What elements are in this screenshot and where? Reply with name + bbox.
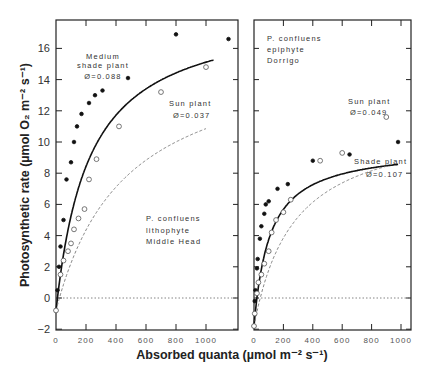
- shade-data-point: [69, 160, 73, 164]
- shade-data-point: [267, 199, 271, 203]
- sun-data-point: [259, 272, 264, 277]
- right-sun-phi: Ø=0.049: [350, 108, 387, 117]
- photosynthesis-light-response-figure: 02004006008001000−20246810121416 Medium …: [0, 0, 428, 377]
- sun-data-point: [82, 207, 87, 212]
- sun-data-point: [288, 197, 293, 202]
- y-tick-label: 4: [44, 230, 50, 242]
- y-tick-label: 8: [44, 167, 50, 179]
- left-shade-label-1: Medium: [86, 52, 120, 61]
- sun-data-point: [269, 230, 274, 235]
- sun-data-point: [281, 210, 286, 215]
- sun-data-point: [72, 227, 77, 232]
- x-tick-label: 400: [108, 336, 124, 345]
- y-tick-label: 6: [44, 198, 50, 210]
- left-plot-data: [54, 33, 231, 313]
- shade-data-point: [396, 140, 400, 144]
- shade-data-point: [80, 112, 84, 116]
- y-tick-label: 2: [44, 261, 50, 273]
- shade-data-point: [75, 125, 79, 129]
- sun-data-point: [87, 177, 92, 182]
- left-site-label-2: lithophyte: [146, 226, 190, 235]
- x-tick-label: 800: [363, 336, 379, 345]
- shade-data-point: [255, 267, 259, 271]
- right-axis-ticks: 02004006008001000: [251, 20, 412, 345]
- sun-data-point: [262, 261, 267, 266]
- y-tick-label: 0: [44, 292, 50, 304]
- shade-data-point: [276, 187, 280, 191]
- sun-data-point: [54, 308, 59, 313]
- shade-data-point: [57, 265, 61, 269]
- x-tick-label: 1000: [390, 336, 412, 345]
- left-sun-label: Sun plant: [169, 99, 212, 108]
- shade-data-point: [260, 224, 264, 228]
- right-site-label-1: P. confluens: [267, 34, 322, 43]
- shade-data-point: [87, 101, 91, 105]
- left-panel: 02004006008001000−20246810121416 Medium …: [37, 20, 238, 345]
- x-tick-label: 400: [305, 336, 321, 345]
- shade-data-point: [286, 182, 290, 186]
- shade-data-point: [264, 203, 268, 207]
- left-shade-label-2: shade plant: [77, 61, 129, 70]
- left-shade-phi: Ø=0.088: [84, 72, 121, 81]
- shade-data-point: [93, 93, 97, 97]
- sun-data-point: [255, 291, 260, 296]
- x-tick-label: 800: [168, 336, 184, 345]
- shade-data-point: [62, 218, 66, 222]
- y-tick-label: 12: [38, 105, 50, 117]
- right-sun-label: Sun plant: [348, 97, 391, 106]
- sun-data-point: [318, 158, 323, 163]
- shade-data-point: [256, 257, 260, 261]
- shade-data-point: [101, 89, 105, 93]
- shade-data-point: [72, 140, 76, 144]
- shade-data-point: [258, 237, 262, 241]
- sun-data-point: [76, 216, 81, 221]
- x-tick-label: 600: [334, 336, 350, 345]
- sun-data-point: [94, 157, 99, 162]
- left-site-label-1: P. confluens: [146, 214, 201, 223]
- shade-data-point: [348, 153, 352, 157]
- sun-fit-curve: [254, 166, 386, 326]
- sun-data-point: [256, 280, 261, 285]
- shade-data-point: [59, 245, 63, 249]
- sun-data-point: [274, 218, 279, 223]
- right-site-label-3: Dorrigo: [267, 56, 300, 65]
- shade-data-point: [262, 212, 266, 216]
- x-tick-label: 600: [138, 336, 154, 345]
- sun-data-point: [61, 258, 66, 263]
- shade-data-point: [174, 33, 178, 37]
- x-tick-label: 1000: [195, 336, 217, 345]
- shade-data-point: [56, 288, 60, 292]
- x-tick-label: 200: [275, 336, 291, 345]
- y-tick-label: −2: [37, 323, 50, 335]
- sun-data-point: [69, 241, 74, 246]
- y-tick-label: 10: [38, 136, 50, 148]
- y-axis-title: Photosynthetic rate (µmol O₂ m⁻² s⁻¹): [18, 63, 32, 287]
- sun-data-point: [340, 151, 345, 156]
- sun-data-point: [58, 272, 63, 277]
- sun-data-point: [252, 324, 257, 329]
- shade-fit-curve: [56, 60, 214, 311]
- sun-data-point: [266, 249, 271, 254]
- y-tick-label: 14: [38, 74, 50, 86]
- shade-data-point: [311, 159, 315, 163]
- x-tick-label: 0: [251, 336, 256, 345]
- shade-data-point: [227, 37, 231, 41]
- sun-data-point: [252, 311, 257, 316]
- left-site-label-3: Middle Head: [146, 237, 201, 246]
- x-axis-title: Absorbed quanta (µmol m⁻² s⁻¹): [136, 348, 327, 362]
- shade-data-point: [126, 76, 130, 80]
- sun-data-point: [159, 90, 164, 95]
- x-tick-label: 200: [78, 336, 94, 345]
- sun-data-point: [66, 249, 71, 254]
- right-shade-phi: Ø=0.107: [366, 170, 403, 179]
- left-sun-phi: Ø=0.037: [173, 111, 210, 120]
- y-tick-label: 16: [38, 42, 50, 54]
- shade-data-point: [65, 178, 69, 182]
- sun-data-point: [117, 124, 122, 129]
- sun-data-point: [204, 65, 209, 70]
- shade-data-point: [253, 299, 257, 303]
- x-tick-label: 0: [53, 336, 58, 345]
- right-site-label-2: epiphyte: [267, 45, 305, 54]
- right-panel: 02004006008001000 P. confluens epiphyte …: [251, 20, 412, 345]
- right-plot-data: [252, 115, 400, 329]
